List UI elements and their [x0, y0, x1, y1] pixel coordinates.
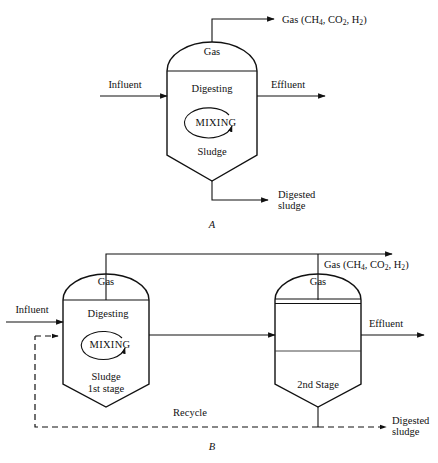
gas-mid-2: , H: [346, 14, 359, 25]
gas-mid-2-b: , H: [388, 259, 401, 270]
gas-suffix: ): [363, 14, 367, 26]
gas-prefix-b: Gas (CH: [324, 259, 361, 271]
panel-a: Gas (CH4, CO2, H2) Gas Digesting MIXING …: [100, 14, 367, 231]
panel-a-gas-riser: [212, 19, 230, 42]
panel-a-digested-sludge-label-line1: Digested: [278, 189, 316, 200]
panel-a-letter: A: [208, 219, 216, 230]
gas-suffix-b: ): [405, 259, 409, 271]
panel-a-effluent-label: Effluent: [271, 79, 305, 90]
panel-a-gas-outlet-label: Gas (CH4, CO2, H2): [282, 14, 367, 27]
panel-a-zone-label: Digesting: [192, 83, 234, 94]
panel-b-stage1-stage-label: 1st stage: [88, 383, 125, 394]
panel-b-stage1-dome-label: Gas: [98, 276, 114, 287]
panel-a-digested-sludge-line: [212, 181, 268, 200]
panel-b: Gas (CH4, CO2, H2) Gas Digesting MIXING …: [6, 254, 430, 452]
panel-b-letter: B: [209, 441, 216, 452]
panel-b-influent-label: Influent: [15, 304, 48, 315]
panel-b-stage1-zone-label: Digesting: [88, 308, 130, 319]
gas-mid-1-b: , CO: [365, 259, 385, 270]
panel-b-stage2-stage-label: 2nd Stage: [297, 379, 339, 390]
panel-b-stage1-gas-riser: [106, 254, 318, 300]
figure-root: Gas (CH4, CO2, H2) Gas Digesting MIXING …: [0, 0, 438, 463]
panel-a-digested-sludge-label-line2: sludge: [278, 200, 306, 211]
panel-b-stage1-sludge-label: Sludge: [91, 371, 121, 382]
digester-flow-diagram: Gas (CH4, CO2, H2) Gas Digesting MIXING …: [0, 0, 438, 463]
panel-a-vessel-outline: [167, 42, 257, 181]
panel-b-effluent-label: Effluent: [369, 318, 403, 329]
panel-b-stage1-mixing-label: MIXING: [90, 339, 131, 350]
panel-a-influent-label: Influent: [108, 79, 141, 90]
panel-a-dome-label: Gas: [204, 46, 220, 57]
panel-b-gas-outlet-label: Gas (CH4, CO2, H2): [324, 259, 409, 272]
panel-a-mixing-label: MIXING: [196, 117, 237, 128]
gas-mid-1: , CO: [323, 14, 343, 25]
gas-prefix: Gas (CH: [282, 14, 319, 26]
panel-b-stage2-dome-label: Gas: [310, 276, 326, 287]
panel-b-recycle-label: Recycle: [173, 407, 207, 418]
panel-b-digested-sludge-label-line1: Digested: [392, 415, 430, 426]
panel-a-sludge-label: Sludge: [197, 146, 227, 157]
panel-b-digested-sludge-label-line2: sludge: [392, 426, 420, 437]
